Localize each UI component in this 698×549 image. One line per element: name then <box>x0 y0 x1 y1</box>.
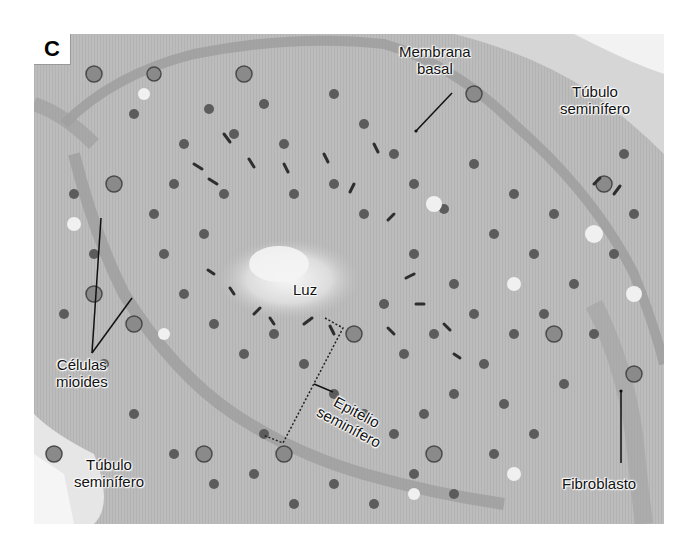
label-membrana-basal: Membrana basal <box>399 43 471 77</box>
label-tubulo-seminifero-bottom: Túbulo seminífero <box>74 456 144 490</box>
label-fibroblasto: Fibroblasto <box>562 475 636 492</box>
label-tubulo-seminifero-top: Túbulo seminífero <box>560 83 630 117</box>
panel-letter: C <box>34 34 71 65</box>
label-celulas-mioides: Células mioides <box>56 356 108 390</box>
label-luz: Luz <box>293 281 317 298</box>
